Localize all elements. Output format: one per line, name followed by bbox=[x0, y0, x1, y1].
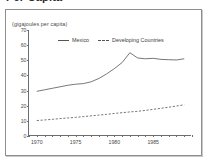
x-axis-minor-tick bbox=[153, 135, 154, 137]
x-axis-minor-tick bbox=[68, 135, 69, 137]
x-axis-tick-label: 1980 bbox=[109, 139, 121, 145]
series-line-developing-countries bbox=[37, 105, 184, 121]
figure-title-clipped: Per Capita bbox=[0, 0, 208, 9]
y-axis-tick-label: 40 bbox=[21, 72, 27, 78]
x-axis-minor-tick bbox=[83, 135, 84, 137]
x-axis-minor-tick bbox=[107, 135, 108, 137]
x-axis-minor-tick bbox=[130, 135, 131, 137]
y-axis-tick-mark bbox=[27, 121, 29, 122]
y-axis-tick-mark bbox=[27, 106, 29, 107]
x-axis-minor-tick bbox=[161, 135, 162, 137]
x-axis-minor-tick bbox=[169, 135, 170, 137]
x-axis-tick-label: 1975 bbox=[70, 139, 82, 145]
y-axis-tick-label: 60 bbox=[21, 42, 27, 48]
x-axis-minor-tick bbox=[45, 135, 46, 137]
y-axis-tick-mark bbox=[27, 30, 29, 31]
x-axis-minor-tick bbox=[114, 135, 115, 137]
x-axis-minor-tick bbox=[60, 135, 61, 137]
x-axis-tick-label: 1970 bbox=[31, 139, 43, 145]
y-axis-tick-label: 70 bbox=[21, 27, 27, 33]
x-axis-minor-tick bbox=[91, 135, 92, 137]
y-axis-tick-label: 30 bbox=[21, 88, 27, 94]
series-line-mexico bbox=[37, 53, 184, 92]
x-axis-minor-tick bbox=[99, 135, 100, 137]
plot-area: 0102030405060701970197519801985 bbox=[28, 30, 191, 136]
x-axis-minor-tick bbox=[52, 135, 53, 137]
x-axis-minor-tick bbox=[145, 135, 146, 137]
y-axis-tick-label: 10 bbox=[21, 118, 27, 124]
y-axis-tick-mark bbox=[27, 45, 29, 46]
x-axis-minor-tick bbox=[122, 135, 123, 137]
y-axis-tick-mark bbox=[27, 75, 29, 76]
x-axis-minor-tick bbox=[29, 135, 30, 137]
x-axis-minor-tick bbox=[176, 135, 177, 137]
y-axis-tick-label: 20 bbox=[21, 103, 27, 109]
x-axis-minor-tick bbox=[138, 135, 139, 137]
x-axis-minor-tick bbox=[76, 135, 77, 137]
y-axis-tick-mark bbox=[27, 60, 29, 61]
x-axis-minor-tick bbox=[192, 135, 193, 137]
figure-root: Per Capita (gigajoules per capita) Mexic… bbox=[0, 0, 208, 161]
x-axis-minor-tick bbox=[184, 135, 185, 137]
y-axis-tick-mark bbox=[27, 91, 29, 92]
x-axis-tick-label: 1985 bbox=[147, 139, 159, 145]
page-title: Per Capita bbox=[6, 0, 62, 3]
y-axis-tick-label: 50 bbox=[21, 57, 27, 63]
x-axis-minor-tick bbox=[37, 135, 38, 137]
plot-svg bbox=[29, 30, 192, 136]
